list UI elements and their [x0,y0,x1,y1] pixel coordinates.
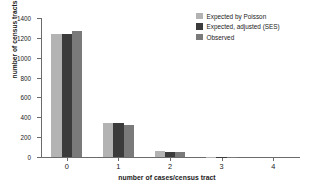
y-tick-label: 600 [0,94,31,101]
y-tick-label: 400 [0,114,31,121]
legend-item: Expected by Poisson [196,11,280,21]
x-tick-label: 3 [220,162,224,171]
x-tick-mark [67,157,68,161]
bar [62,34,72,157]
y-tick-label: 0 [0,154,31,161]
x-tick-label: 0 [65,162,69,171]
bar [165,152,175,157]
y-tick-label: 1400 [0,15,31,22]
x-tick-mark [170,157,171,161]
y-tick-mark [37,157,41,158]
x-tick-mark [273,157,274,161]
legend-swatch-icon [196,23,203,30]
legend-item: Observed [196,32,280,42]
legend-swatch-icon [196,13,203,20]
y-tick-label: 1000 [0,54,31,61]
bar [155,151,165,157]
legend-label: Expected, adjusted (SES) [207,23,280,30]
bar [124,125,134,157]
bar [51,34,61,157]
x-tick-mark [118,157,119,161]
chart-legend: Expected by PoissonExpected, adjusted (S… [196,11,280,43]
bar [175,152,185,157]
bar [72,31,82,157]
y-tick-label: 200 [0,134,31,141]
x-tick-label: 4 [271,162,275,171]
y-tick-label: 1200 [0,34,31,41]
legend-swatch-icon [196,34,203,41]
y-tick-label: 800 [0,74,31,81]
legend-item: Expected, adjusted (SES) [196,22,280,32]
bar [113,123,123,157]
bar-chart: number of census tracts 0200400600800100… [0,0,333,190]
x-axis-title: number of cases/census tract [34,174,300,181]
x-tick-mark [222,157,223,161]
x-tick-label: 2 [168,162,172,171]
x-tick-label: 1 [116,162,120,171]
bar [103,123,113,157]
legend-label: Observed [207,34,235,41]
legend-label: Expected by Poisson [207,13,267,20]
